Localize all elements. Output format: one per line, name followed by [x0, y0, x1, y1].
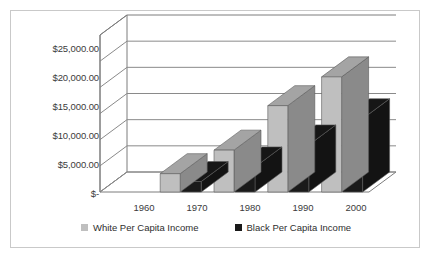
x-axis: 1960 1970 1980 1990 2000 — [11, 11, 421, 249]
x-axis-tick-label: 1990 — [278, 202, 328, 213]
x-axis-tick-label: 2000 — [331, 202, 381, 213]
legend-entry-black-per-capita-income: Black Per Capita Income — [235, 222, 352, 233]
x-axis-tick-label: 1970 — [172, 202, 222, 213]
x-axis-tick-label: 1980 — [225, 202, 275, 213]
legend-entry-white-per-capita-income: White Per Capita Income — [81, 222, 199, 233]
chart-frame: $25,000.00 $20,000.00 $15,000.00 $10,000… — [10, 10, 420, 248]
legend-label: Black Per Capita Income — [247, 222, 352, 233]
legend-swatch-white-per-capita — [81, 224, 88, 231]
legend-swatch-black-per-capita — [235, 224, 242, 231]
x-axis-tick-label: 1960 — [119, 202, 169, 213]
chart-legend: White Per Capita Income Black Per Capita… — [11, 217, 421, 237]
legend-label: White Per Capita Income — [93, 222, 199, 233]
